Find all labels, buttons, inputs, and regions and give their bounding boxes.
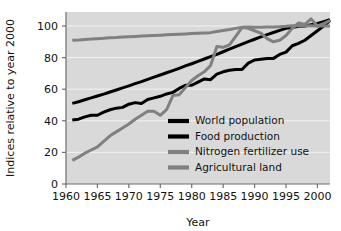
y-tick-label: 100: [37, 20, 58, 33]
y-tick-label: 40: [44, 115, 58, 128]
x-tick-label: 1960: [52, 190, 80, 203]
x-tick-label: 2000: [303, 190, 331, 203]
x-tick-label: 1970: [115, 190, 143, 203]
line-chart: 020406080100 196019651970197519801985199…: [0, 0, 341, 231]
x-tick-label: 1980: [178, 190, 206, 203]
x-axis-title: Year: [185, 216, 210, 229]
x-tick-label: 1985: [209, 190, 237, 203]
x-tick-label: 1990: [241, 190, 269, 203]
legend-label-3: Agricultural land: [195, 161, 282, 173]
legend-label-0: World population: [195, 114, 284, 126]
x-tick-label: 1995: [272, 190, 300, 203]
x-tick-label: 1965: [83, 190, 111, 203]
x-tick-label: 1975: [146, 190, 174, 203]
legend-label-2: Nitrogen fertilizer use: [195, 145, 309, 157]
y-tick-label: 60: [44, 83, 58, 96]
chart-figure: 020406080100 196019651970197519801985199…: [0, 0, 341, 231]
legend-label-1: Food production: [195, 130, 280, 142]
y-axis-title: Indices relative to year 2000: [4, 19, 17, 177]
y-tick-label: 80: [44, 52, 58, 65]
y-tick-label: 20: [44, 146, 58, 159]
